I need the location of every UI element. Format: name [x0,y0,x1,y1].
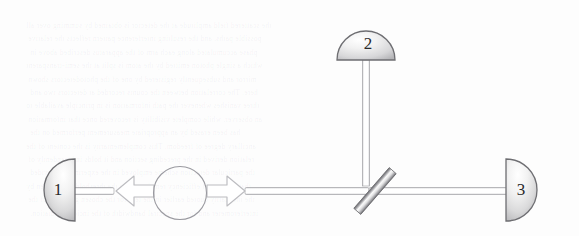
beam-beamsplitter-to-detector3 [369,188,507,195]
beam-paths [73,60,507,195]
beam-detector1-to-arrow [73,188,114,195]
beam-source-to-beamsplitter [245,188,369,195]
detector-2[interactable]: 2 [337,31,395,60]
figure-canvas: the scattered field amplitude at the det… [0,0,579,236]
optics-diagram: 1 2 3 [0,0,579,236]
source-circle [154,167,207,220]
detector-1[interactable]: 1 [44,159,75,221]
arrow-right-icon [207,176,245,206]
beam-beamsplitter-to-detector2 [363,60,370,186]
arrow-left-icon [116,176,154,206]
detector-3[interactable]: 3 [506,159,537,221]
detector-1-label: 1 [54,180,63,199]
detector-3-label: 3 [517,180,526,199]
detector-2-label: 2 [364,34,373,53]
propagation-arrows [116,176,245,206]
